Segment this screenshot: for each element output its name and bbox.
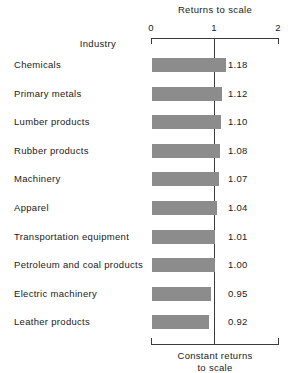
row-value: 1.10 bbox=[228, 116, 248, 128]
chart-row: Electric machinery0.95 bbox=[0, 287, 297, 301]
row-label: Apparel bbox=[14, 202, 49, 214]
row-bar bbox=[152, 258, 215, 272]
chart-row: Apparel1.04 bbox=[0, 201, 297, 215]
row-label: Chemicals bbox=[14, 59, 61, 71]
row-label: Petroleum and coal products bbox=[14, 259, 143, 271]
row-label: Lumber products bbox=[14, 116, 90, 128]
row-bar bbox=[152, 87, 223, 101]
row-bar bbox=[152, 287, 212, 301]
constant-returns-annotation: Constant returns to scale bbox=[151, 350, 279, 373]
row-value: 0.95 bbox=[228, 288, 248, 300]
row-bar bbox=[152, 230, 216, 244]
bottom-axis-line bbox=[151, 344, 279, 345]
row-bar bbox=[152, 58, 226, 72]
row-label: Transportation equipment bbox=[14, 231, 129, 243]
row-value: 0.92 bbox=[228, 316, 248, 328]
bottom-axis-tick-right bbox=[278, 338, 279, 344]
returns-to-scale-chart: Returns to scale 0 1 2 Industry Chemical… bbox=[0, 0, 297, 373]
annotation-line-1: Constant returns bbox=[151, 350, 279, 362]
chart-row: Transportation equipment1.01 bbox=[0, 230, 297, 244]
row-label: Electric machinery bbox=[14, 288, 97, 300]
chart-row: Rubber products1.08 bbox=[0, 144, 297, 158]
row-value: 1.08 bbox=[228, 145, 248, 157]
bottom-axis-tick-left bbox=[151, 338, 152, 344]
row-value: 1.12 bbox=[228, 88, 248, 100]
annotation-line-2: to scale bbox=[151, 362, 279, 373]
chart-row: Petroleum and coal products1.00 bbox=[0, 258, 297, 272]
chart-row: Lumber products1.10 bbox=[0, 115, 297, 129]
row-bar bbox=[152, 201, 218, 215]
chart-row: Machinery1.07 bbox=[0, 172, 297, 186]
row-bar bbox=[152, 172, 219, 186]
row-value: 1.04 bbox=[228, 202, 248, 214]
row-bar bbox=[152, 115, 221, 129]
row-label: Leather products bbox=[14, 316, 90, 328]
row-value: 1.18 bbox=[228, 59, 248, 71]
chart-row: Chemicals1.18 bbox=[0, 58, 297, 72]
row-label: Machinery bbox=[14, 173, 61, 185]
chart-row: Primary metals1.12 bbox=[0, 87, 297, 101]
chart-rows: Chemicals1.18Primary metals1.12Lumber pr… bbox=[0, 0, 297, 373]
row-label: Rubber products bbox=[14, 145, 89, 157]
row-bar bbox=[152, 315, 210, 329]
chart-row: Leather products0.92 bbox=[0, 315, 297, 329]
row-bar bbox=[152, 144, 220, 158]
row-value: 1.01 bbox=[228, 231, 248, 243]
row-value: 1.07 bbox=[228, 173, 248, 185]
row-label: Primary metals bbox=[14, 88, 82, 100]
row-value: 1.00 bbox=[228, 259, 248, 271]
